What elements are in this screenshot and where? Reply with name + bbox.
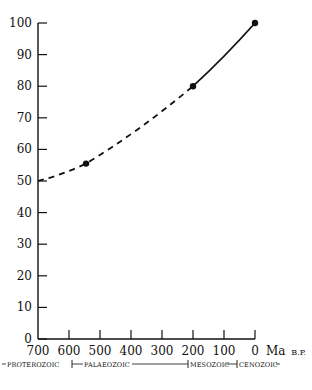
era-label-palaeozoic: PALAEOZOIC <box>84 361 130 369</box>
solid-curve <box>193 23 255 86</box>
y-tick-label: 70 <box>17 111 32 125</box>
data-point <box>190 83 196 89</box>
x-tick-label: 600 <box>58 344 81 358</box>
x-axis: 7006005004003002001000 <box>27 330 259 358</box>
chart-canvas: 0102030405060708090100 70060050040030020… <box>0 0 312 390</box>
x-tick-label: 500 <box>89 344 112 358</box>
x-tick-label: 700 <box>27 344 50 358</box>
data-point <box>83 160 89 166</box>
x-tick-label: 300 <box>151 344 174 358</box>
x-tick-label: 400 <box>120 344 143 358</box>
y-tick-label: 60 <box>17 142 32 156</box>
y-tick-label: 80 <box>17 79 32 93</box>
era-label-cenozoic: CENOZOIC <box>239 361 278 369</box>
era-label-mesozoic: MESOZOIC <box>190 361 229 369</box>
data-point <box>252 20 258 26</box>
y-tick-label: 100 <box>9 16 32 30</box>
x-tick-label: 100 <box>213 344 236 358</box>
y-tick-label: 10 <box>17 300 32 314</box>
y-tick-label: 20 <box>17 269 32 283</box>
era-label-proterozoic: PROTEROZOIC <box>7 361 59 369</box>
y-tick-label: 90 <box>17 48 32 62</box>
y-tick-label: 40 <box>17 206 32 220</box>
era-bar: PROTEROZOICPALAEOZOICMESOZOICCENOZOIC <box>2 360 280 369</box>
y-tick-label: 30 <box>17 237 32 251</box>
y-tick-label: 50 <box>17 174 32 188</box>
x-tick-label: 0 <box>251 344 259 358</box>
curve-series <box>38 23 255 181</box>
data-points <box>83 20 258 167</box>
x-tick-label: 200 <box>182 344 205 358</box>
dashed-curve <box>38 86 193 181</box>
x-axis-unit-label: Ma B.P. <box>266 344 306 358</box>
